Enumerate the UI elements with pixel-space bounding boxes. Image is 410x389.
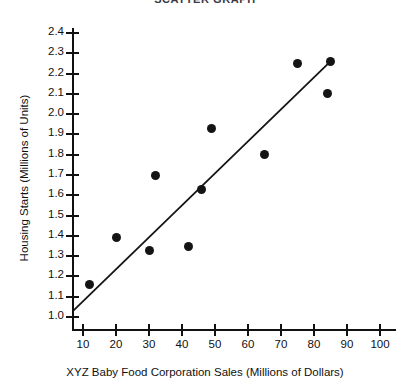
scatter-chart: SCATTER GRAPH Housing Starts (Millions o… [0,0,410,389]
data-point [184,242,193,251]
data-point [323,89,332,98]
trend-line [0,0,410,389]
data-point [326,57,335,66]
data-point [197,185,206,194]
data-point [112,233,121,242]
data-point [207,124,216,133]
data-point [145,246,154,255]
data-point [293,59,302,68]
data-point [151,171,160,180]
